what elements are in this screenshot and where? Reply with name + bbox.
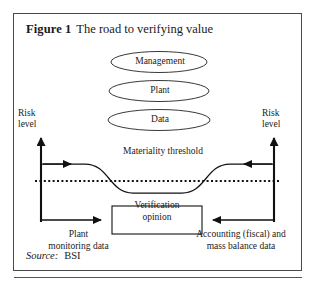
verification-opinion-label: Verification opinion [113,200,201,223]
ellipse-label-management: Management [112,56,208,67]
verification-opinion-line1: Verification [135,200,180,210]
figure-root: Figure 1The road to verifying value [0,0,314,285]
right-risk-label: Risk level [262,108,308,130]
left-input-connector [41,180,101,220]
source-label: Source: [26,250,58,261]
source-value: BSI [64,250,80,261]
right-risk-label-line2: level [262,119,280,129]
left-input-line2: monitoring data [48,241,108,251]
road-curve [41,164,274,193]
right-input-line2: mass balance data [207,241,276,251]
left-input-label: Plant monitoring data [26,229,131,252]
materiality-threshold-label: Materiality threshold [107,146,219,157]
ellipse-label-data: Data [112,114,208,125]
source-note: Source:BSI [26,250,81,261]
left-risk-label: Risk level [18,108,64,130]
left-risk-label-line2: level [18,119,36,129]
right-input-line1: Accounting (fiscal) and [196,229,286,239]
verification-opinion-line2: opinion [142,212,171,222]
right-input-label: Accounting (fiscal) and mass balance dat… [182,229,300,252]
page-bottom-rule [14,277,302,278]
left-risk-label-line1: Risk [18,108,35,118]
left-input-line1: Plant [69,229,89,239]
right-input-connector [213,180,274,220]
ellipse-label-plant: Plant [112,85,208,96]
right-risk-label-line1: Risk [262,108,279,118]
